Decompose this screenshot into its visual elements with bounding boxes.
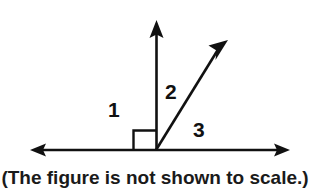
angle-label-3: 3 — [193, 119, 205, 140]
figure-caption: (The figure is not shown to scale.) — [0, 165, 310, 191]
geometry-figure: 1 2 3 (The figure is not shown to scale.… — [0, 0, 310, 195]
angle-label-1: 1 — [108, 99, 120, 120]
right-angle-marker-icon — [134, 131, 157, 151]
diagonal-arrowhead-icon — [209, 40, 229, 60]
angle-label-2: 2 — [165, 81, 177, 102]
